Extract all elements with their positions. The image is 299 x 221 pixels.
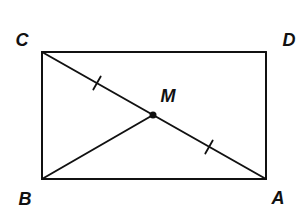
label-m: M bbox=[161, 86, 177, 106]
congruence-tick-cm bbox=[93, 77, 100, 90]
label-c: C bbox=[16, 30, 30, 50]
midpoint-m-dot bbox=[150, 112, 157, 119]
label-b: B bbox=[19, 189, 32, 209]
congruence-tick-ma bbox=[205, 141, 212, 154]
geometry-diagram: C D B A M bbox=[0, 0, 299, 221]
segment-bm bbox=[42, 115, 153, 179]
label-a: A bbox=[271, 188, 285, 208]
label-d: D bbox=[283, 30, 296, 50]
